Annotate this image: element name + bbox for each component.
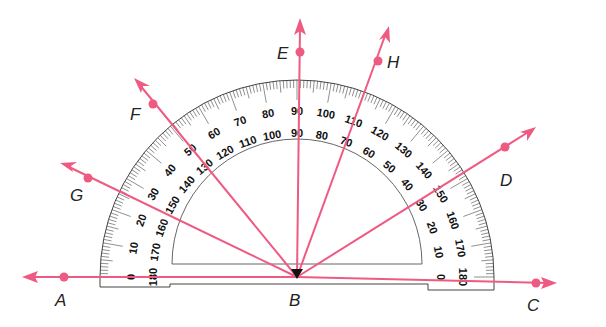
point-F	[149, 100, 158, 109]
label-H: H	[387, 53, 400, 72]
label-D: D	[500, 171, 512, 190]
point-C	[532, 279, 541, 288]
scale-number: 90	[291, 105, 303, 117]
scale-number: 80	[261, 106, 275, 120]
scale-number: 180	[457, 268, 469, 286]
label-B: B	[289, 291, 300, 310]
scale-number: 80	[315, 128, 329, 142]
protractor-diagram: 0102030405060708090100110120130140150160…	[0, 0, 606, 327]
point-A	[60, 273, 69, 282]
point-H	[374, 57, 383, 66]
label-G: G	[70, 186, 83, 205]
point-D	[501, 143, 510, 152]
scale-number: 10	[126, 241, 140, 255]
diagram-canvas: 0102030405060708090100110120130140150160…	[0, 0, 606, 327]
label-E: E	[277, 44, 289, 63]
label-A: A	[54, 291, 66, 310]
scale-number: 90	[291, 127, 303, 139]
scale-number: 0	[435, 274, 447, 280]
label-F: F	[130, 105, 142, 124]
point-G	[84, 174, 93, 183]
arrowhead-F	[134, 78, 150, 93]
arrowhead-D	[520, 127, 536, 141]
scale-number: 10	[432, 245, 446, 259]
label-C: C	[527, 296, 540, 315]
arrowhead-H	[379, 26, 390, 43]
point-E	[296, 48, 305, 57]
